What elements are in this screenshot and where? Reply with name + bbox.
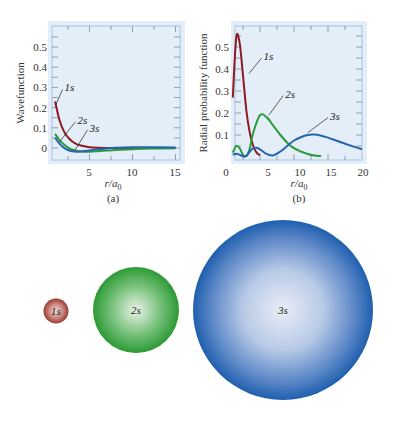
orbital-spheres: 1s 2s 3s bbox=[44, 220, 374, 400]
x-tick-label: 10 bbox=[127, 166, 139, 178]
panel-label-a: (a) bbox=[107, 192, 120, 205]
x-axis-title-main: r/a bbox=[291, 177, 304, 189]
y-tick-label: 0.2 bbox=[215, 107, 229, 119]
y-tick-label: 0.1 bbox=[33, 122, 47, 134]
x-axis-title-subscript: 0 bbox=[303, 183, 307, 192]
series-label-1s: 1s bbox=[263, 50, 273, 62]
x-axis-title: r/a0 bbox=[291, 177, 308, 192]
x-tick-label: 15 bbox=[326, 166, 338, 178]
y-tick-labels: 00.10.20.30.40.5 bbox=[33, 41, 47, 154]
y-tick-label: 0.5 bbox=[215, 41, 229, 53]
figure: 1s2s3s 51015 00.10.20.30.40.5 Wavefuncti… bbox=[0, 0, 394, 425]
y-axis-title: Radial probability function bbox=[197, 33, 209, 153]
x-tick-label: 5 bbox=[86, 166, 92, 178]
orbital-3s: 3s bbox=[193, 220, 373, 400]
panel-label-b: (b) bbox=[293, 192, 306, 205]
y-tick-label: 0.3 bbox=[33, 81, 47, 93]
y-tick-labels: 0.10.20.30.40.5 bbox=[215, 41, 229, 141]
y-tick-label: 0.4 bbox=[33, 61, 47, 73]
x-tick-label: 5 bbox=[265, 166, 271, 178]
y-tick-label: 0 bbox=[42, 142, 48, 154]
y-axis-title: Wavefunction bbox=[14, 62, 26, 124]
series-label-1s: 1s bbox=[65, 81, 75, 93]
y-tick-label: 0.1 bbox=[215, 129, 229, 141]
y-tick-label: 0.5 bbox=[33, 41, 47, 53]
orbital-1s-label: 1s bbox=[51, 305, 61, 317]
orbital-2s: 2s bbox=[93, 267, 179, 353]
x-axis-title-subscript: 0 bbox=[117, 183, 121, 192]
y-tick-label: 0.3 bbox=[215, 85, 229, 97]
x-tick-label: 15 bbox=[170, 166, 182, 178]
chart-panel-a: 1s2s3s 51015 00.10.20.30.40.5 Wavefuncti… bbox=[14, 21, 185, 205]
y-tick-label: 0.2 bbox=[33, 102, 47, 114]
x-tick-label: 0 bbox=[223, 166, 229, 178]
series-label-3s: 3s bbox=[89, 122, 100, 134]
series-label-2s: 2s bbox=[77, 114, 87, 126]
orbital-3s-label: 3s bbox=[277, 304, 288, 316]
x-tick-label: 20 bbox=[358, 166, 370, 178]
x-axis-title-main: r/a bbox=[105, 177, 118, 189]
x-tick-labels: 51015 bbox=[86, 166, 181, 178]
series-label-3s: 3s bbox=[329, 110, 340, 122]
x-axis-title: r/a0 bbox=[105, 177, 122, 192]
y-tick-label: 0.4 bbox=[215, 63, 229, 75]
orbital-1s: 1s bbox=[44, 299, 69, 324]
chart-panel-b: 1s2s3s 05101520 0.10.20.30.40.5 Radial p… bbox=[197, 21, 369, 205]
series-label-2s: 2s bbox=[285, 88, 295, 100]
orbital-2s-label: 2s bbox=[131, 304, 141, 316]
